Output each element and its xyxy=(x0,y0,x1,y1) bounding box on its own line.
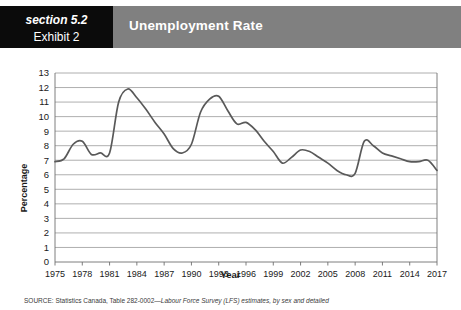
y-tick-label: 9 xyxy=(44,126,49,137)
x-axis-label: Year xyxy=(0,269,461,280)
y-tick-label: 11 xyxy=(39,96,49,107)
y-tick-label: 13 xyxy=(38,67,49,78)
y-tick-label: 5 xyxy=(44,184,49,195)
y-tick-label: 8 xyxy=(44,140,49,151)
y-tick-label: 3 xyxy=(44,213,49,224)
exhibit-title: Unemployment Rate xyxy=(129,18,263,33)
y-tick-label: 10 xyxy=(38,111,49,122)
line-chart: 0123456789101112131975197819811984198719… xyxy=(0,48,461,290)
y-tick-label: 2 xyxy=(44,227,49,238)
source-italic: Labour Force Survey (LFS) estimates, by … xyxy=(161,297,329,304)
y-tick-label: 4 xyxy=(44,198,49,209)
y-axis-label: Percentage xyxy=(19,143,29,233)
exhibit-figure: section 5.2 Exhibit 2 Unemployment Rate … xyxy=(0,0,461,310)
exhibit-number-label: Exhibit 2 xyxy=(0,30,113,44)
chart-area: 0123456789101112131975197819811984198719… xyxy=(0,48,461,290)
y-tick-label: 1 xyxy=(44,242,49,253)
y-tick-label: 7 xyxy=(44,155,49,166)
y-tick-label: 6 xyxy=(44,169,49,180)
y-tick-label: 0 xyxy=(44,256,49,267)
section-number-label: section 5.2 xyxy=(0,13,113,27)
source-prefix: SOURCE: Statistics Canada, Table 282-000… xyxy=(24,297,161,304)
source-note: SOURCE: Statistics Canada, Table 282-000… xyxy=(24,297,461,305)
section-badge: section 5.2 Exhibit 2 xyxy=(0,6,113,48)
y-tick-label: 12 xyxy=(38,82,49,93)
